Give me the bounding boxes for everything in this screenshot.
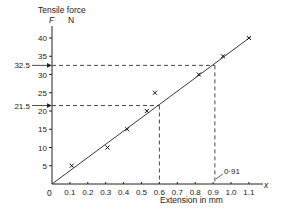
y-tick-label: 20 <box>38 107 47 116</box>
best-fit-line <box>52 37 251 184</box>
data-point-marker <box>153 91 157 95</box>
x-tick-label: 1.1 <box>243 188 255 197</box>
y-tick-label: 10 <box>38 144 47 153</box>
y-tick-label: 5 <box>43 162 48 171</box>
data-point-marker <box>145 109 149 113</box>
y-axis-title: Tensile force <box>38 5 86 15</box>
x-axis-title: Extension in mm <box>160 195 223 205</box>
x-tick-label: 0.5 <box>136 188 148 197</box>
y-tick-label: 30 <box>38 71 47 80</box>
data-point-marker <box>105 146 109 150</box>
x-tick-label: 0.4 <box>118 188 130 197</box>
tensile-force-chart: 0.10.20.30.40.50.60.70.80.91.01.15101520… <box>0 0 285 214</box>
readoff-label: 32.5 <box>14 61 30 70</box>
x-tick-label: 0.3 <box>100 188 112 197</box>
x-axis-symbol: x <box>263 180 269 190</box>
readoff-label: 21.5 <box>14 102 30 111</box>
data-points <box>70 36 251 168</box>
x-callout-label: 0·91 <box>224 167 241 176</box>
y-tick-label: 35 <box>38 52 47 61</box>
dashed-guides: 32.521.50·91 <box>14 61 240 184</box>
x-tick-label: 0.2 <box>82 188 94 197</box>
origin-label: 0 <box>47 188 52 198</box>
ticks: 0.10.20.30.40.50.60.70.80.91.01.15101520… <box>38 34 255 197</box>
x-tick-label: 1.0 <box>225 188 237 197</box>
y-tick-label: 40 <box>38 34 47 43</box>
data-point-marker <box>247 36 251 40</box>
y-tick-label: 25 <box>38 89 47 98</box>
y-axis-unit: N <box>68 15 74 25</box>
y-tick-label: 15 <box>38 125 47 134</box>
y-axis-symbol: F <box>49 15 55 25</box>
data-point-marker <box>70 164 74 168</box>
x-tick-label: 0.1 <box>64 188 76 197</box>
